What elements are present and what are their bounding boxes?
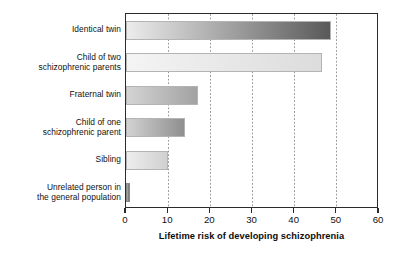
gridline-30 — [252, 14, 253, 207]
x-tick-label: 0 — [110, 214, 140, 225]
gridline-50 — [336, 14, 337, 207]
x-tick-mark-60 — [377, 208, 378, 213]
bar — [126, 118, 185, 137]
gridline-20 — [210, 14, 211, 207]
bar — [126, 53, 322, 72]
category-label: Sibling — [0, 154, 121, 164]
x-axis-title: Lifetime risk of developing schizophreni… — [125, 231, 378, 241]
x-tick-mark-50 — [335, 208, 336, 213]
x-tick-label: 60 — [363, 214, 393, 225]
bar-chart: Identical twinChild of two schizophrenic… — [0, 0, 399, 256]
x-tick-label: 40 — [279, 214, 309, 225]
category-label: Fraternal twin — [0, 89, 121, 99]
bar — [126, 21, 331, 40]
category-label: Identical twin — [0, 24, 121, 34]
x-tick-label: 50 — [321, 214, 351, 225]
category-label: Child of two schizophrenic parents — [0, 52, 121, 72]
bar — [126, 86, 198, 105]
bar — [126, 151, 168, 170]
category-label: Child of one schizophrenic parent — [0, 117, 121, 137]
category-label: Unrelated person in the general populati… — [0, 182, 121, 202]
x-tick-mark-0 — [124, 208, 125, 213]
x-tick-mark-10 — [167, 208, 168, 213]
x-tick-label: 20 — [194, 214, 224, 225]
gridline-40 — [294, 14, 295, 207]
bar — [126, 183, 130, 202]
category-axis: Identical twinChild of two schizophrenic… — [0, 13, 121, 208]
x-tick-mark-30 — [251, 208, 252, 213]
x-tick-label: 10 — [152, 214, 182, 225]
plot-area — [125, 13, 378, 208]
x-tick-mark-20 — [209, 208, 210, 213]
x-tick-label: 30 — [237, 214, 267, 225]
x-tick-mark-40 — [293, 208, 294, 213]
gridline-10 — [168, 14, 169, 207]
